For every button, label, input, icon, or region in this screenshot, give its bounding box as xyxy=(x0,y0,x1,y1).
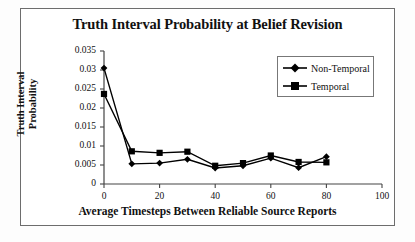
legend-marker-square-icon xyxy=(282,80,308,92)
data-point-square xyxy=(101,91,107,97)
data-point-diamond xyxy=(295,164,302,171)
y-tick-label: 0.015 xyxy=(52,121,96,131)
data-point-diamond xyxy=(128,160,135,167)
y-tick-label: 0.005 xyxy=(52,159,96,169)
data-point-square xyxy=(212,163,218,169)
legend-item-temporal: Temporal xyxy=(282,78,349,94)
y-tick-label: 0.025 xyxy=(52,83,96,93)
data-point-square xyxy=(296,159,302,165)
series-line-temporal xyxy=(104,94,326,166)
legend-marker-diamond-icon xyxy=(282,62,308,74)
data-point-square xyxy=(157,150,163,156)
data-point-diamond xyxy=(184,156,191,163)
y-tick-label: 0.035 xyxy=(52,45,96,55)
data-point-diamond xyxy=(323,153,330,160)
data-point-square xyxy=(129,148,135,154)
y-tick-label: 0.01 xyxy=(52,140,96,150)
data-point-square xyxy=(268,152,274,158)
legend-label-non-temporal: Non-Temporal xyxy=(311,63,370,74)
data-point-square xyxy=(323,159,329,165)
x-tick-label: 20 xyxy=(145,191,175,201)
data-point-square xyxy=(240,160,246,166)
x-tick-label: 80 xyxy=(311,191,341,201)
x-tick-label: 40 xyxy=(200,191,230,201)
y-tick-label: 0.02 xyxy=(52,102,96,112)
x-tick-label: 0 xyxy=(89,191,119,201)
data-point-diamond xyxy=(156,160,163,167)
legend-label-temporal: Temporal xyxy=(311,81,349,92)
x-tick-label: 100 xyxy=(367,191,397,201)
legend-item-non-temporal: Non-Temporal xyxy=(282,60,370,76)
y-tick-label: 0 xyxy=(52,178,96,188)
data-point-square xyxy=(184,149,190,155)
chart-figure: Truth Interval Probability at Belief Rev… xyxy=(0,0,415,242)
x-tick-label: 60 xyxy=(256,191,286,201)
chart-legend: Non-Temporal Temporal xyxy=(277,56,374,97)
y-tick-label: 0.03 xyxy=(52,64,96,74)
